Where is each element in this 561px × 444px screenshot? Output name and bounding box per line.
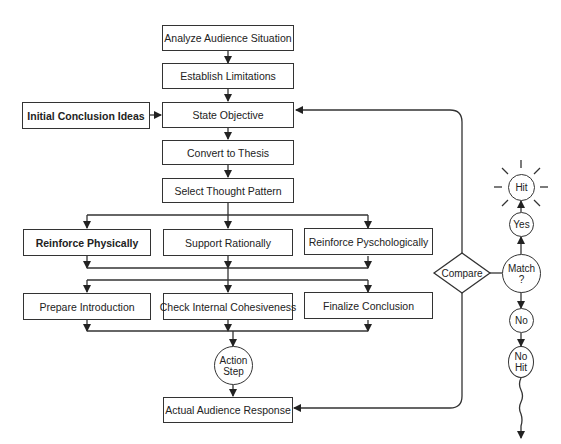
state-objective-box: State Objective: [162, 102, 294, 128]
match-line1: Match: [508, 263, 535, 274]
prepare-introduction-label: Prepare Introduction: [39, 301, 134, 313]
check-cohesiveness-label: Check Internal Cohesiveness: [160, 301, 297, 313]
convert-thesis-label: Convert to Thesis: [187, 147, 269, 159]
initial-conclusion-ideas-box: Initial Conclusion Ideas: [22, 102, 150, 129]
no-hit-line2: Hit: [515, 362, 527, 373]
yes-circle: Yes: [509, 212, 534, 237]
finalize-conclusion-label: Finalize Conclusion: [323, 300, 414, 312]
actual-audience-response-box: Actual Audience Response: [163, 397, 293, 423]
no-hit-circle: NoHit: [508, 346, 534, 378]
analyze-audience-box: Analyze Audience Situation: [162, 25, 294, 51]
actual-audience-response-label: Actual Audience Response: [165, 404, 291, 416]
initial-conclusion-ideas-label: Initial Conclusion Ideas: [27, 110, 144, 122]
match-line2: ?: [519, 274, 525, 285]
no-circle: No: [509, 308, 534, 333]
hit-circle: Hit: [508, 174, 535, 201]
no-hit-line1: No: [515, 351, 528, 362]
reinforce-psychologically-label: Reinforce Pyschologically: [309, 236, 429, 248]
reinforce-psychologically-box: Reinforce Pyschologically: [304, 228, 433, 255]
action-step-circle: ActionStep: [214, 346, 253, 385]
compare-label: Compare: [441, 268, 482, 279]
select-thought-pattern-label: Select Thought Pattern: [174, 185, 281, 197]
finalize-conclusion-box: Finalize Conclusion: [304, 292, 433, 319]
establish-limitations-box: Establish Limitations: [162, 63, 294, 89]
convert-thesis-box: Convert to Thesis: [162, 140, 294, 165]
establish-limitations-label: Establish Limitations: [180, 70, 276, 82]
no-label: No: [515, 315, 528, 326]
compare-diamond: Compare: [434, 263, 490, 283]
prepare-introduction-box: Prepare Introduction: [23, 293, 151, 320]
select-thought-pattern-box: Select Thought Pattern: [162, 178, 294, 203]
analyze-audience-label: Analyze Audience Situation: [164, 32, 291, 44]
support-rationally-label: Support Rationally: [185, 237, 271, 249]
action-step-line2: Step: [223, 366, 244, 377]
reinforce-physically-label: Reinforce Physically: [36, 237, 139, 249]
check-cohesiveness-box: Check Internal Cohesiveness: [163, 293, 293, 320]
hit-label: Hit: [515, 182, 527, 193]
yes-label: Yes: [513, 219, 529, 230]
match-circle: Match?: [502, 254, 541, 293]
state-objective-label: State Objective: [192, 109, 263, 121]
reinforce-physically-box: Reinforce Physically: [23, 229, 151, 256]
action-step-line1: Action: [220, 355, 248, 366]
support-rationally-box: Support Rationally: [163, 229, 293, 256]
